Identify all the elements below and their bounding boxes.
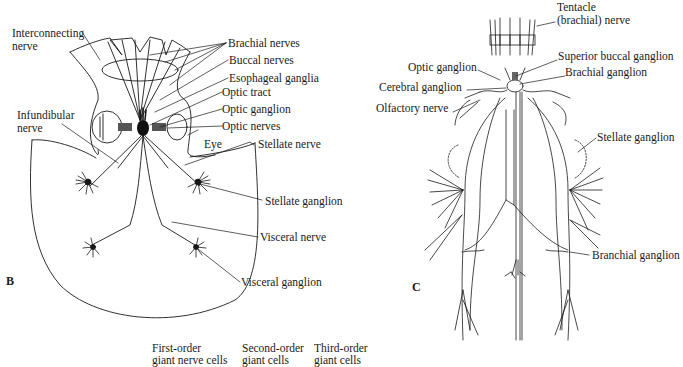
label-esophageal-ganglia: Esophageal ganglia — [229, 72, 319, 85]
label-branchial-ganglion: Branchial ganglion — [592, 249, 680, 262]
label-stellate-ganglion: Stellate ganglion — [265, 195, 343, 208]
label-first-order-line2: giant nerve cells — [152, 354, 227, 367]
label-stellate-nerve: Stellate nerve — [258, 138, 321, 151]
panel-b-ganglia — [76, 172, 210, 257]
label-visceral-nerve: Visceral nerve — [260, 231, 326, 244]
label-visceral-ganglion: Visceral ganglion — [241, 276, 322, 289]
label-tentacle-nerve-line2: (brachial) nerve — [557, 14, 630, 27]
label-optic-ganglion: Optic ganglion — [222, 103, 291, 116]
label-infundibular-nerve: Infundibular — [17, 109, 74, 122]
label-buccal-nerves: Buccal nerves — [229, 54, 294, 67]
label-optic-nerves: Optic nerves — [222, 120, 280, 133]
label-interconnecting-nerve-line2: nerve — [12, 40, 38, 53]
label-infundibular-nerve-line2: nerve — [17, 122, 43, 135]
label-optic-tract: Optic tract — [222, 86, 271, 99]
label-tentacle-nerve: Tentacle — [557, 1, 596, 14]
label-optic-ganglion-c: Optic ganglion — [408, 61, 477, 74]
label-second-order-line2: giant cells — [242, 354, 289, 367]
panel-b-body — [30, 37, 257, 318]
label-superior-buccal-ganglion: Superior buccal ganglion — [558, 50, 674, 63]
label-brachial-nerves: Brachial nerves — [228, 37, 300, 50]
panel-letter-c: C — [412, 280, 421, 295]
label-stellate-ganglion-c: Stellate ganglion — [597, 131, 675, 144]
panel-letter-b: B — [6, 274, 14, 289]
label-olfactory-nerve: Olfactory nerve — [376, 102, 448, 115]
label-cerebral-ganglion: Cerebral ganglion — [379, 81, 462, 94]
label-brachial-ganglion: Brachial ganglion — [565, 66, 647, 79]
label-third-order-line2: giant cells — [314, 354, 361, 367]
label-interconnecting-nerve: Interconnecting — [12, 27, 84, 40]
label-eye: Eye — [204, 138, 222, 151]
